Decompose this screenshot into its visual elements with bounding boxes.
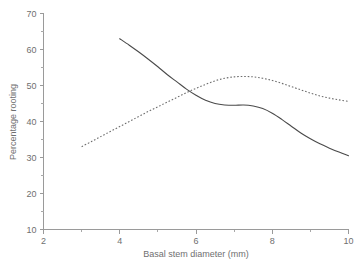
- x-tick-label: 4: [117, 236, 122, 246]
- x-axis-tick-labels: 246810: [41, 236, 354, 246]
- x-tick-label: 2: [41, 236, 46, 246]
- y-tick-label: 30: [26, 153, 36, 163]
- y-tick-label: 10: [26, 225, 36, 235]
- x-tick-label: 8: [270, 236, 275, 246]
- x-tick-label: 6: [193, 236, 198, 246]
- x-axis-title: Basal stem diameter (mm): [143, 249, 249, 259]
- line-chart: 10203040506070 246810 Basal stem diamete…: [0, 0, 357, 265]
- y-tick-label: 70: [26, 9, 36, 19]
- y-tick-label: 20: [26, 189, 36, 199]
- series-dotted-line: [82, 77, 349, 147]
- y-tick-label: 40: [26, 117, 36, 127]
- y-axis-tick-labels: 10203040506070: [26, 9, 36, 235]
- y-axis-ticks: [40, 14, 44, 230]
- y-axis-title: Percentage rooting: [8, 84, 18, 160]
- x-tick-label: 10: [343, 236, 353, 246]
- y-tick-label: 60: [26, 45, 36, 55]
- axes-group: [44, 14, 349, 230]
- x-axis-ticks: [44, 230, 349, 234]
- series-solid-line: [120, 39, 349, 156]
- chart-container: 10203040506070 246810 Basal stem diamete…: [0, 0, 357, 265]
- y-tick-label: 50: [26, 81, 36, 91]
